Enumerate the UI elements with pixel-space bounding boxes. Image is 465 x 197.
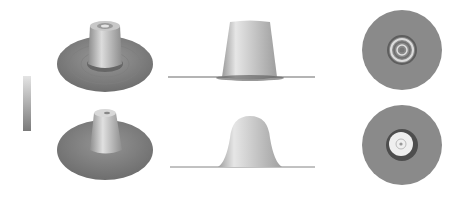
- row1-oblique-view: [50, 0, 170, 100]
- row1-side-view: [160, 0, 320, 90]
- row2-top-view: [350, 95, 465, 195]
- row2-oblique-view: [50, 95, 170, 195]
- row2-side-view: [160, 100, 320, 195]
- row1-top-view: [350, 0, 465, 95]
- colorbar: [23, 76, 31, 131]
